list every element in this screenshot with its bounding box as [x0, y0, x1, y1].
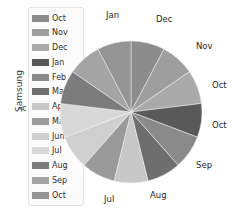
legend-item[interactable]: Oct [32, 188, 81, 202]
legend-label: Oct [52, 14, 66, 23]
pie-slice-label: Oct [212, 120, 227, 130]
legend-swatch [32, 59, 49, 66]
legend-item[interactable]: Aug [32, 159, 81, 173]
pie-slice-label: Oct [212, 80, 227, 90]
legend-swatch [32, 44, 49, 51]
pie-svg [84, 8, 240, 210]
legend-swatch [32, 88, 49, 95]
legend-swatch [32, 162, 49, 169]
legend-swatch [32, 177, 49, 184]
legend-label: Dec [52, 43, 67, 52]
legend-swatch [32, 15, 49, 22]
legend-label: Jul [52, 146, 62, 155]
pie-chart-figure: Samsung A OctNovDecJanFebMarAprMayJunJul… [0, 0, 240, 218]
axis-sub-label: A [19, 94, 28, 124]
legend-label: Nov [52, 28, 68, 37]
legend-item[interactable]: Jan [32, 55, 81, 69]
legend-item[interactable]: Sep [32, 173, 81, 187]
legend-label: Jan [52, 58, 64, 67]
legend-swatch [32, 118, 49, 125]
pie-container: JanDecNovOctOctSepAugJul [84, 8, 240, 210]
legend-label: Oct [52, 191, 66, 200]
pie-slice-label: Sep [196, 160, 212, 170]
pie-slice-label: Jul [104, 194, 114, 204]
legend-label: Sep [52, 176, 67, 185]
legend-swatch [32, 103, 49, 110]
pie-slice-label: Nov [196, 41, 213, 51]
legend-swatch [32, 147, 49, 154]
legend-item[interactable]: Nov [32, 26, 81, 40]
legend-label: Aug [52, 161, 68, 170]
legend-swatch [32, 29, 49, 36]
legend-label: Feb [52, 73, 66, 82]
legend-swatch [32, 192, 49, 199]
pie-slice-label: Jan [106, 10, 119, 20]
pie-slice-label: Aug [150, 190, 167, 200]
legend-item[interactable]: Dec [32, 41, 81, 55]
legend-swatch [32, 74, 49, 81]
pie-slices [60, 41, 202, 183]
legend-label: Jun [52, 132, 65, 141]
legend-item[interactable]: Oct [32, 11, 81, 25]
legend-swatch [32, 133, 49, 140]
pie-slice-label: Dec [156, 14, 172, 24]
